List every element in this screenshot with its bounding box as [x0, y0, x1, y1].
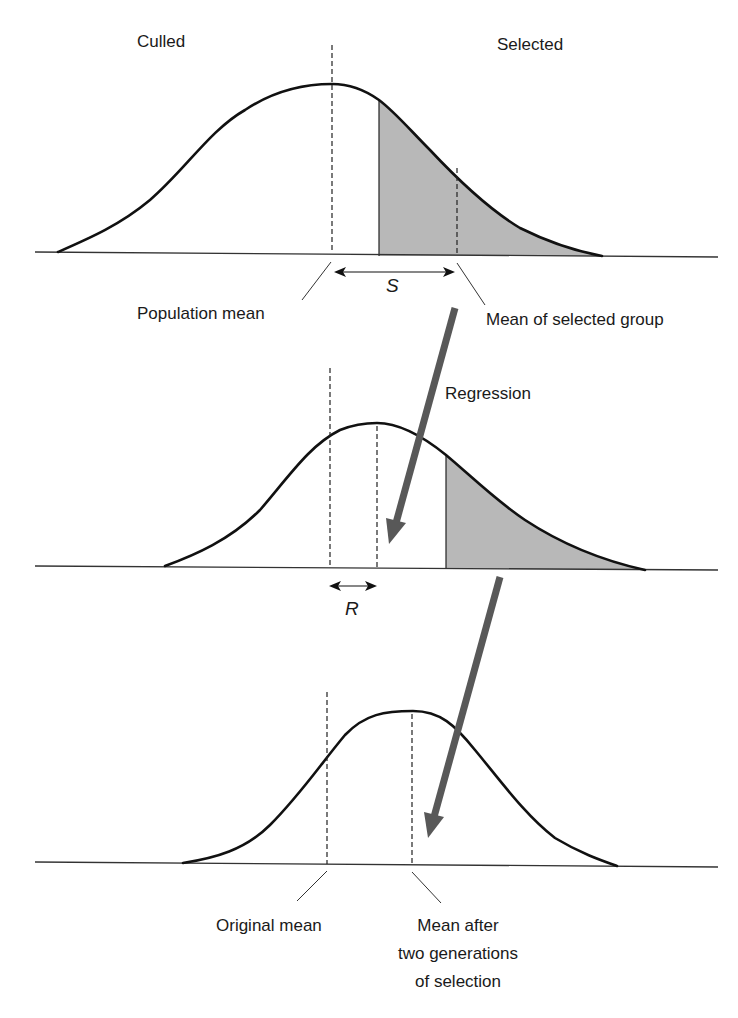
selection-regression-diagram: Culled Selected S Population mean Mean o… [0, 0, 738, 1018]
baseline-1 [35, 252, 718, 257]
final-mean-leader [412, 872, 441, 903]
regression-label: Regression [445, 384, 531, 403]
selected-mean-leader [457, 263, 485, 305]
r-symbol: R [345, 598, 359, 619]
selected-mean-label: Mean of selected group [486, 310, 664, 329]
selected-tail-shading [379, 100, 602, 256]
culled-label: Culled [137, 32, 185, 51]
population-mean-leader [302, 262, 331, 300]
selected-tail-shading-2 [446, 455, 645, 570]
final-mean-label-line1: Mean after [417, 916, 499, 935]
regression-arrowhead-2-icon [424, 812, 444, 838]
selected-label: Selected [497, 35, 563, 54]
panel-generation-1: Culled Selected S Population mean Mean o… [35, 32, 718, 329]
s-symbol: S [386, 275, 399, 296]
distribution-curve-3 [183, 711, 617, 866]
regression-arrow-shaft-2 [434, 577, 500, 817]
regression-arrowhead-1-icon [386, 518, 406, 544]
panel-generation-3: Original mean Mean after two generations… [35, 692, 718, 991]
final-mean-label-line3: of selection [415, 972, 501, 991]
panel-generation-2: Regression R [35, 368, 718, 619]
final-mean-label-line2: two generations [398, 944, 518, 963]
population-mean-label: Population mean [137, 304, 265, 323]
regression-arrow-2 [424, 577, 500, 838]
original-mean-leader [297, 871, 327, 901]
original-mean-label: Original mean [216, 916, 322, 935]
